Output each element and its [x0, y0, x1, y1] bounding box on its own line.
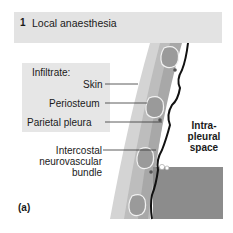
- label-intercostal-bundle: Intercostal neurovascular bundle: [36, 145, 102, 178]
- infiltrate-heading: Infiltrate:: [32, 67, 70, 78]
- lung-block: [153, 167, 223, 219]
- label-intrapleural-space: Intra- pleural space: [182, 120, 226, 153]
- label-parietal-pleura: Parietal pleura: [27, 117, 91, 128]
- panel-letter: (a): [18, 202, 30, 213]
- label-periosteum: Periosteum: [49, 98, 100, 109]
- label-skin: Skin: [83, 79, 102, 90]
